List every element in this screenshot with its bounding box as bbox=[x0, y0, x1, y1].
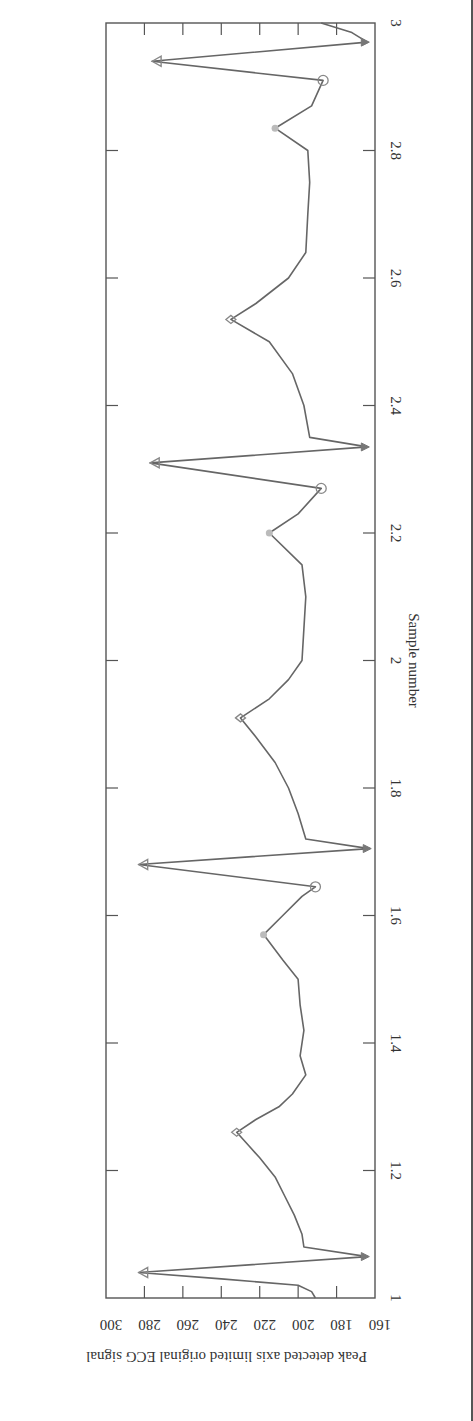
sample-tick-label: 2 bbox=[388, 657, 404, 665]
value-tick-label: 280 bbox=[138, 1317, 161, 1333]
ecg-series bbox=[139, 23, 370, 1298]
value-tick-label: 240 bbox=[215, 1317, 238, 1333]
value-tick-label: 200 bbox=[292, 1317, 315, 1333]
onset-marker bbox=[272, 125, 279, 132]
onset-marker bbox=[266, 530, 273, 537]
peak-markers bbox=[139, 38, 372, 1277]
s-trough-marker bbox=[361, 443, 369, 451]
s-trough-marker bbox=[361, 1253, 369, 1261]
ecg-chart: 16018020022024026028030011.21.41.61.822.… bbox=[0, 0, 473, 1421]
onset-marker bbox=[260, 931, 267, 938]
sample-tick-label: 2.6 bbox=[388, 269, 404, 288]
value-tick-label: 220 bbox=[253, 1317, 276, 1333]
sample-tick-label: 2.4 bbox=[388, 396, 404, 415]
axis-ticks bbox=[106, 23, 375, 1298]
sample-tick-label: 1.6 bbox=[388, 906, 404, 925]
sample-tick-label: 1.8 bbox=[388, 779, 404, 798]
s-trough-marker bbox=[363, 845, 371, 853]
value-tick-label: 180 bbox=[330, 1317, 353, 1333]
sample-tick-label: 1 bbox=[388, 1294, 404, 1302]
sample-tick-label: 1.4 bbox=[388, 1034, 404, 1053]
axis-titles: Sample number Peak detected axis limited… bbox=[86, 613, 422, 1365]
y-axis-label: Peak detected axis limited original ECG … bbox=[86, 1349, 367, 1365]
value-tick-label: 300 bbox=[100, 1317, 123, 1333]
sample-tick-label: 2.2 bbox=[388, 524, 404, 543]
s-trough-marker bbox=[361, 38, 369, 46]
plot-frame bbox=[106, 23, 375, 1298]
x-axis-label: Sample number bbox=[406, 613, 422, 708]
plot-border bbox=[106, 23, 375, 1298]
axis-tick-labels: 16018020022024026028030011.21.41.61.822.… bbox=[100, 19, 404, 1333]
sample-tick-label: 2.8 bbox=[388, 141, 404, 160]
sample-tick-label: 3 bbox=[388, 19, 404, 27]
ecg-line bbox=[139, 23, 370, 1298]
sample-tick-label: 1.2 bbox=[388, 1161, 404, 1180]
value-tick-label: 160 bbox=[369, 1317, 392, 1333]
value-tick-label: 260 bbox=[177, 1317, 200, 1333]
